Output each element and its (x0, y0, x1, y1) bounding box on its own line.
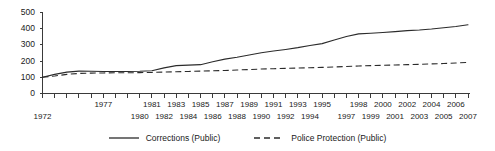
x-axis-tick-label: 2002 (398, 101, 416, 109)
legend-label-corrections: Corrections (Public) (146, 134, 221, 143)
x-axis-tick-label: 2005 (435, 113, 453, 121)
y-axis-tick-label: 100 (11, 73, 35, 82)
x-axis-tick-label: 1992 (277, 113, 295, 121)
legend-entry-corrections: Corrections (Public) (109, 134, 221, 143)
x-axis-tick-label: 1997 (338, 113, 356, 121)
y-axis-tick-label: 500 (11, 8, 35, 17)
x-axis-tick-label: 1986 (204, 113, 222, 121)
axes-group (43, 12, 471, 94)
x-axis-tick-label: 1984 (179, 113, 197, 121)
series-line-police-protection (43, 62, 469, 77)
x-axis-tick-label: 1999 (362, 113, 380, 121)
x-axis-tick-label: 1972 (34, 113, 52, 121)
line-chart: 5004003002001000 19771981198319851987198… (0, 0, 495, 151)
legend-entry-police-protection: Police Protection (Public) (254, 134, 386, 143)
solid-line-swatch-icon (109, 134, 139, 142)
x-axis-tick-label: 1980 (131, 113, 149, 121)
x-axis-tick-label: 2004 (423, 101, 441, 109)
x-axis-tick-label: 1983 (167, 101, 185, 109)
x-axis-tick-label: 2007 (459, 113, 477, 121)
x-axis-tick-label: 1988 (228, 113, 246, 121)
x-axis-ticks (43, 94, 469, 98)
x-axis-tick-label: 2003 (410, 113, 428, 121)
x-axis-tick-label: 1994 (301, 113, 319, 121)
y-axis-tick-label: 300 (11, 40, 35, 49)
x-axis-tick-label: 2000 (374, 101, 392, 109)
y-axis-tick-label: 400 (11, 24, 35, 33)
x-axis-tick-label: 1990 (252, 113, 270, 121)
x-axis-tick-label: 1982 (155, 113, 173, 121)
plot-area (0, 0, 495, 151)
y-axis-tick-label: 200 (11, 57, 35, 66)
legend-label-police-protection: Police Protection (Public) (291, 134, 386, 143)
dashed-line-swatch-icon (254, 134, 284, 142)
x-axis-tick-label: 1991 (265, 101, 283, 109)
x-axis-tick-label: 1989 (240, 101, 258, 109)
x-axis-tick-label: 1977 (94, 101, 112, 109)
y-axis-tick-label: 0 (11, 89, 35, 98)
x-axis-tick-label: 1995 (313, 101, 331, 109)
x-axis-tick-label: 1981 (143, 101, 161, 109)
x-axis-tick-label: 1993 (289, 101, 307, 109)
x-axis-tick-label: 1985 (192, 101, 210, 109)
x-axis-tick-label: 2001 (386, 113, 404, 121)
x-axis-tick-label: 1987 (216, 101, 234, 109)
x-axis-tick-label: 2006 (447, 101, 465, 109)
chart-legend: Corrections (Public) Police Protection (… (0, 130, 495, 146)
x-axis-tick-label: 1998 (350, 101, 368, 109)
